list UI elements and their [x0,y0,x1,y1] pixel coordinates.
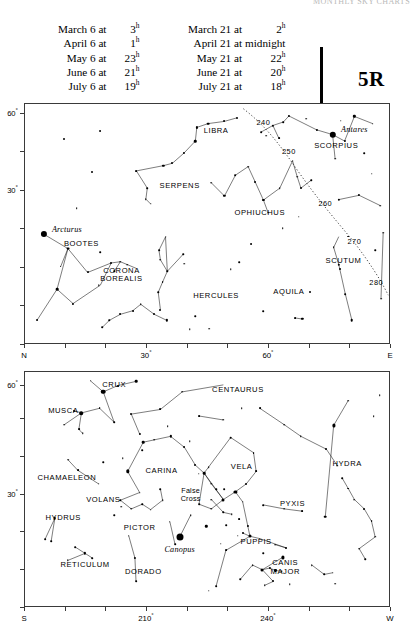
star-marker [353,115,355,117]
star-marker [184,263,186,265]
star-marker [332,572,334,574]
sky-field-north: LIBRASCORPIUSSERPENSOPHIUCHUSSCUTUMAQUIL… [25,104,389,343]
star-marker [340,120,342,122]
star-marker [91,171,93,173]
star-marker [282,227,284,229]
star-marker [279,187,281,189]
date-row: March 6 at 3h [58,22,139,36]
star-marker [358,194,360,196]
star-marker [211,182,213,184]
star-marker [351,319,354,322]
star-marker [160,488,162,490]
star-marker [354,499,356,501]
star-marker [247,166,249,168]
x-axis-tick [65,344,66,348]
y-axis-tick [20,456,24,457]
star-marker [208,590,210,592]
date-time: 19h [109,79,139,93]
star-marker [254,181,256,183]
star-marker [380,298,382,300]
star-marker [229,436,232,439]
star-marker [135,170,137,172]
constellation-label: HYDRUS [46,514,81,522]
star-marker [153,313,155,315]
date-time: 18h [245,79,285,93]
star-marker [311,179,313,181]
y-axis-tick [20,305,24,306]
date-time: 22h [245,51,285,65]
y-axis-tick [20,607,24,608]
star-marker [373,415,375,417]
constellation-label: MUSCA [48,406,78,414]
star-marker [323,574,325,576]
date-time: 20h [245,65,285,79]
constellation-label: SERPENS [160,182,200,190]
star-marker [253,452,255,454]
star-marker [347,488,349,490]
star-marker [324,515,327,518]
star-marker [311,564,313,566]
star-marker [140,304,142,306]
star-marker [300,436,302,438]
x-axis-tick [187,344,188,348]
star-marker [223,195,225,197]
star-marker [122,457,124,459]
star-marker [162,499,164,501]
star-marker [247,525,249,527]
star-marker [99,131,101,133]
constellation-label: AQUILA [273,287,304,295]
star-marker [128,535,130,537]
star-marker [272,124,274,126]
constellation-label: SCUTUM [326,256,362,264]
x-axis-tick [227,344,228,348]
star-marker [87,271,89,273]
star-marker [100,251,102,253]
star-marker [275,544,277,546]
star-marker [333,247,335,249]
x-axis-tick [390,344,391,348]
star-marker [198,473,200,475]
star-marker [234,490,237,493]
date-label: July 21 at [188,79,245,93]
x-axis-tick [309,607,310,611]
star-marker [334,158,336,160]
star-marker [141,450,143,452]
constellation-label: CANIS MAJOR [271,559,300,576]
star-marker [374,250,376,252]
star-marker [80,411,84,415]
star-marker [207,122,210,125]
date-row: July 21 at 18h [188,79,285,93]
star-marker [169,521,171,523]
star-marker [194,464,196,466]
star-marker [344,293,346,295]
date-label: June 6 at [58,65,109,79]
star-marker [372,123,374,125]
constellation-label: VELA [231,463,253,471]
star-marker [223,120,225,122]
star-marker [241,407,243,409]
star-marker [167,271,169,273]
star-marker [265,135,267,137]
star-marker [225,549,227,551]
star-marker [134,557,136,559]
star-marker [358,548,360,550]
star-marker [60,266,62,268]
asterism-label: False Cross [181,487,201,504]
star-marker [236,117,238,119]
star-marker [223,512,225,514]
star-marker [92,557,94,559]
x-axis-tick [268,607,269,611]
constellation-label: HERCULES [193,292,239,300]
star-marker [261,568,264,571]
star-marker [245,483,247,485]
star-marker [329,131,335,137]
constellation-label: SCORPIUS [314,142,358,150]
star-marker [190,514,192,516]
star-marker [76,207,78,209]
date-row: April 21 at midnight [188,36,285,50]
ecliptic-longitude-label: 260 [318,199,332,208]
star-marker [278,137,280,139]
x-axis-tick [227,607,228,611]
star-marker [121,506,123,508]
y-axis-tick [20,267,24,268]
